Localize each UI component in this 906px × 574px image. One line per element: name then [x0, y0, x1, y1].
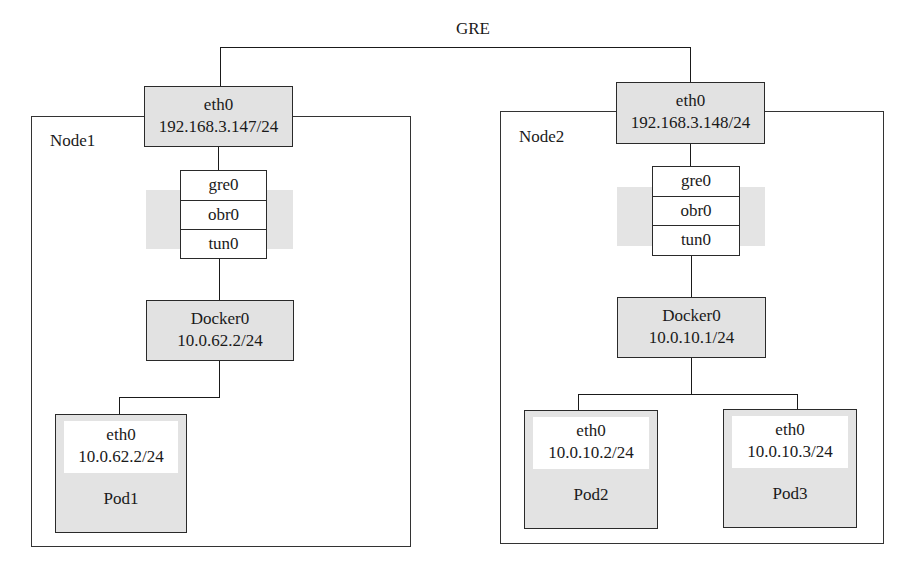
node1-docker0-name: Docker0	[147, 308, 293, 330]
pod1-eth0: eth0 10.0.62.2/24	[64, 421, 178, 473]
pod3[interactable]: eth0 10.0.10.3/24 Pod3	[723, 409, 857, 528]
node1-docker0-ip: 10.0.62.2/24	[147, 330, 293, 352]
gre-link-line	[220, 47, 691, 48]
node2-pod3-drop	[797, 394, 798, 409]
node2-gre0[interactable]: gre0	[653, 167, 739, 196]
pod2-eth0: eth0 10.0.10.2/24	[533, 417, 649, 469]
node2-eth0-name: eth0	[617, 90, 764, 112]
node1-eth0[interactable]: eth0 192.168.3.147/24	[144, 86, 293, 147]
node1-gre0[interactable]: gre0	[181, 171, 266, 200]
node1-obr0[interactable]: obr0	[181, 200, 266, 229]
node2-docker0[interactable]: Docker0 10.0.10.1/24	[617, 297, 766, 358]
node2-label: Node2	[519, 127, 564, 147]
node2-pod2-drop	[578, 394, 579, 410]
pod3-eth0-name: eth0	[732, 419, 848, 441]
node1-eth0-name: eth0	[145, 94, 292, 116]
node2-tun0[interactable]: tun0	[653, 225, 739, 254]
pod3-eth0: eth0 10.0.10.3/24	[732, 416, 848, 468]
node2-interface-stack: gre0 obr0 tun0	[652, 166, 740, 256]
pod1[interactable]: eth0 10.0.62.2/24 Pod1	[55, 414, 187, 533]
gre-link-drop-node2	[690, 47, 691, 83]
pod2-eth0-name: eth0	[533, 420, 649, 442]
node1-pod1-drop	[119, 397, 120, 414]
pod1-eth0-ip: 10.0.62.2/24	[64, 446, 178, 468]
node2-docker-drop	[691, 358, 692, 395]
node1-docker-branch	[119, 397, 220, 398]
pod2[interactable]: eth0 10.0.10.2/24 Pod2	[524, 410, 658, 529]
node2-eth0-ip: 192.168.3.148/24	[617, 112, 764, 134]
node2-eth0[interactable]: eth0 192.168.3.148/24	[616, 82, 765, 144]
gre-link-drop-node1	[220, 47, 221, 87]
pod3-name: Pod3	[724, 484, 856, 504]
pod2-name: Pod2	[525, 485, 657, 505]
pod3-eth0-ip: 10.0.10.3/24	[732, 441, 848, 463]
node1-interface-stack: gre0 obr0 tun0	[180, 170, 267, 259]
gre-link-label: GRE	[456, 19, 490, 39]
node2-stack-to-docker	[691, 256, 692, 297]
node2-docker-branch	[578, 394, 798, 395]
node1-label: Node1	[50, 131, 95, 151]
pod1-eth0-name: eth0	[64, 424, 178, 446]
node1-stack-to-docker	[219, 259, 220, 300]
node2-docker0-name: Docker0	[618, 305, 765, 327]
node1-docker0[interactable]: Docker0 10.0.62.2/24	[146, 300, 294, 361]
node2-eth0-to-stack	[690, 144, 691, 167]
node2-docker0-ip: 10.0.10.1/24	[618, 327, 765, 349]
pod1-name: Pod1	[56, 489, 186, 509]
node1-eth0-to-stack	[218, 147, 219, 171]
node1-docker-drop	[219, 361, 220, 398]
pod2-eth0-ip: 10.0.10.2/24	[533, 442, 649, 464]
node1-eth0-ip: 192.168.3.147/24	[145, 116, 292, 138]
node2-obr0[interactable]: obr0	[653, 196, 739, 225]
node1-tun0[interactable]: tun0	[181, 229, 266, 258]
